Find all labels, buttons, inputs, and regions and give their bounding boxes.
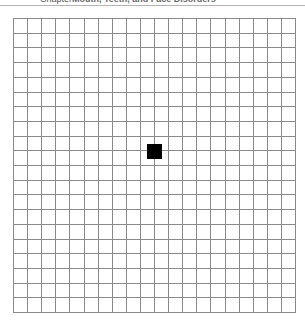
grid-lines	[13, 18, 295, 312]
header-divider	[0, 5, 305, 6]
amsler-grid	[13, 18, 296, 313]
central-fixation-dot	[147, 144, 162, 159]
